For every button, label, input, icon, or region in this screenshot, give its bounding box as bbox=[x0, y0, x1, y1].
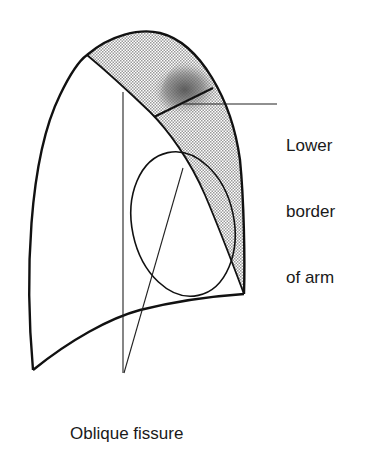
leader-line-fissure-diagonal bbox=[124, 168, 183, 373]
label-oblique-fissure: Oblique fissure pulled upward and forwar… bbox=[70, 379, 183, 450]
shaded-band bbox=[87, 31, 244, 294]
label-line: of arm bbox=[286, 267, 335, 289]
label-line: border bbox=[286, 201, 335, 223]
label-lower-border-of-arm: Lower border of arm bbox=[286, 91, 335, 311]
label-line: Lower bbox=[286, 135, 335, 157]
lung-base bbox=[33, 294, 244, 370]
label-line: Oblique fissure bbox=[70, 423, 183, 445]
